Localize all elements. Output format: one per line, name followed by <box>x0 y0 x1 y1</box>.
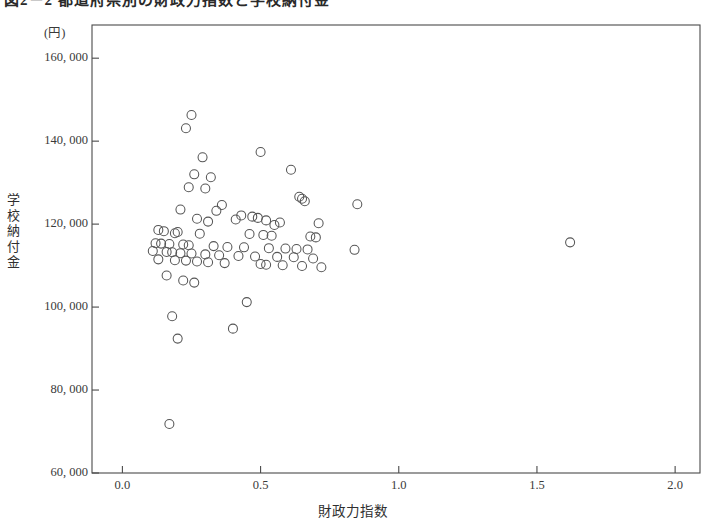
data-point-62 <box>154 255 163 264</box>
y-tick-label-4: 140, 000 <box>6 133 88 148</box>
data-point-60 <box>289 253 298 262</box>
axis-ticks <box>92 58 675 473</box>
x-tick-label-1: 0.5 <box>231 478 291 493</box>
data-point-10 <box>298 194 307 203</box>
data-point-74 <box>179 276 188 285</box>
data-point-38 <box>157 239 166 248</box>
data-point-45 <box>264 244 273 253</box>
data-point-42 <box>209 242 218 251</box>
x-tick-label-2: 1.0 <box>369 478 429 493</box>
data-point-33 <box>267 231 276 240</box>
data-point-79 <box>173 334 182 343</box>
plot-canvas <box>0 0 705 526</box>
data-point-43 <box>223 242 232 251</box>
data-point-76 <box>242 298 251 307</box>
data-point-25 <box>270 220 279 229</box>
data-point-14 <box>176 205 185 214</box>
data-point-13 <box>217 201 226 210</box>
data-point-7 <box>184 183 193 192</box>
data-point-18 <box>253 213 262 222</box>
data-point-69 <box>262 260 271 269</box>
data-point-59 <box>273 252 282 261</box>
data-point-0 <box>187 111 196 120</box>
data-point-71 <box>298 262 307 271</box>
data-point-64 <box>181 256 190 265</box>
data-point-73 <box>162 271 171 280</box>
data-point-80 <box>165 420 174 429</box>
y-tick-label-0: 60, 000 <box>6 465 88 480</box>
data-point-36 <box>566 238 575 247</box>
data-point-48 <box>303 245 312 254</box>
data-point-47 <box>292 245 301 254</box>
data-point-78 <box>228 324 237 333</box>
data-point-19 <box>193 214 202 223</box>
data-point-63 <box>170 256 179 265</box>
data-point-46 <box>281 244 290 253</box>
data-point-2 <box>256 147 265 156</box>
y-tick-label-3: 120, 000 <box>6 216 88 231</box>
data-point-41 <box>184 241 193 250</box>
data-point-27 <box>159 227 168 236</box>
x-tick-label-0: 0.0 <box>92 478 152 493</box>
data-point-70 <box>278 261 287 270</box>
data-point-24 <box>314 219 323 228</box>
data-point-12 <box>353 200 362 209</box>
x-tick-label-4: 2.0 <box>645 478 705 493</box>
data-point-9 <box>295 192 304 201</box>
y-tick-label-2: 100, 000 <box>6 299 88 314</box>
data-point-30 <box>195 229 204 238</box>
data-point-75 <box>190 278 199 287</box>
figure-scatter-plot: 図2－2 都道府県別の財政力指数と学校納付金 (円) 学校納付金 財政力指数 6… <box>0 0 705 526</box>
data-point-67 <box>220 259 229 268</box>
data-point-57 <box>234 252 243 261</box>
data-point-61 <box>309 254 318 263</box>
data-point-77 <box>168 312 177 321</box>
data-point-66 <box>204 258 213 267</box>
data-point-11 <box>300 197 309 206</box>
data-point-49 <box>350 245 359 254</box>
data-point-1 <box>181 124 190 133</box>
data-point-4 <box>286 165 295 174</box>
data-point-50 <box>148 247 157 256</box>
data-point-56 <box>215 251 224 260</box>
data-point-72 <box>317 263 326 272</box>
data-point-21 <box>262 216 271 225</box>
data-point-8 <box>201 184 210 193</box>
data-point-23 <box>275 218 284 227</box>
y-tick-label-1: 80, 000 <box>6 382 88 397</box>
data-points-layer <box>148 111 574 429</box>
data-point-22 <box>204 217 213 226</box>
x-tick-label-3: 1.5 <box>507 478 567 493</box>
data-point-35 <box>311 233 320 242</box>
data-point-3 <box>198 153 207 162</box>
y-tick-label-5: 160, 000 <box>6 50 88 65</box>
data-point-65 <box>193 257 202 266</box>
data-point-6 <box>206 173 215 182</box>
data-point-29 <box>170 229 179 238</box>
data-point-44 <box>240 243 249 252</box>
data-point-5 <box>190 170 199 179</box>
data-point-15 <box>212 206 221 215</box>
data-point-31 <box>245 230 254 239</box>
data-point-32 <box>259 230 268 239</box>
